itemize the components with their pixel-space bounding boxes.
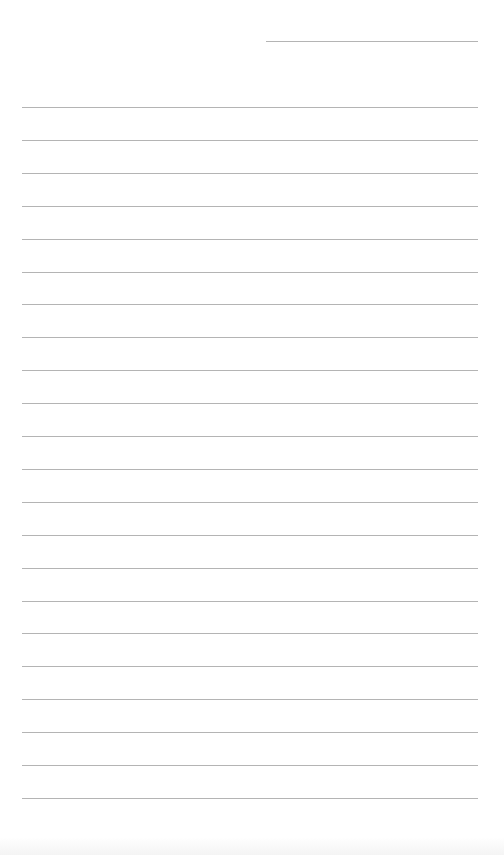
ruled-line — [22, 140, 478, 141]
ruled-line — [22, 633, 478, 634]
ruled-line — [22, 107, 478, 108]
ruled-line — [22, 239, 478, 240]
ruled-line — [22, 173, 478, 174]
ruled-line — [22, 469, 478, 470]
ruled-line — [22, 732, 478, 733]
ruled-line — [22, 601, 478, 602]
ruled-line — [22, 765, 478, 766]
ruled-line — [22, 403, 478, 404]
ruled-line — [22, 337, 478, 338]
ruled-line — [22, 666, 478, 667]
ruled-line — [22, 798, 478, 799]
ruled-line — [22, 370, 478, 371]
name-date-line — [266, 41, 478, 42]
ruled-line — [22, 502, 478, 503]
ruled-line — [22, 206, 478, 207]
ruled-line — [22, 304, 478, 305]
ruled-line — [22, 535, 478, 536]
ruled-line — [22, 568, 478, 569]
page-bottom-edge — [0, 837, 504, 855]
ruled-line — [22, 272, 478, 273]
ruled-line — [22, 699, 478, 700]
ruled-line — [22, 436, 478, 437]
